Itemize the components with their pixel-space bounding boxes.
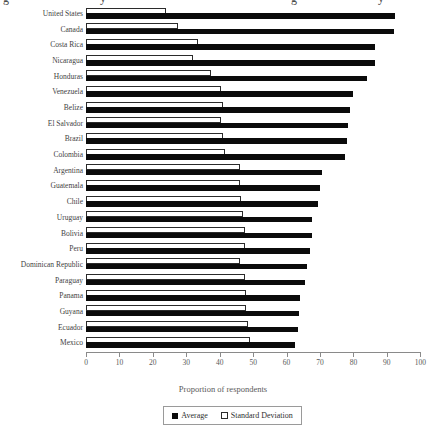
category-label: Canada [0,23,83,36]
x-axis-tick [320,353,321,357]
category-label: Nicaragua [0,54,83,67]
x-axis-tick-label: 40 [208,358,232,367]
x-axis-tick [119,353,120,357]
x-axis-tick-label: 50 [241,358,265,367]
x-axis-tick-label: 30 [174,358,198,367]
bar-chart-figure: gygy United StatesCanadaCosta RicaNicara… [0,0,434,434]
average-bar [86,248,310,254]
average-bar [86,264,307,270]
legend-label-standard-deviation: Standard Deviation [231,411,293,420]
category-label: Brazil [0,132,83,145]
average-bar [86,342,295,348]
x-axis-tick [387,353,388,357]
x-axis-tick [420,353,421,357]
average-bar [86,154,345,160]
x-axis-tick-label: 80 [341,358,365,367]
category-label: Paraguay [0,274,83,287]
x-axis-tick [186,353,187,357]
category-label: Argentina [0,164,83,177]
legend-box: Average Standard Deviation [163,406,302,425]
x-axis-tick-label: 10 [107,358,131,367]
category-label: El Salvador [0,117,83,130]
category-label: Guyana [0,305,83,318]
category-label: Honduras [0,70,83,83]
average-bar [86,44,375,50]
average-bar [86,201,318,207]
category-label: Dominican Republic [0,258,83,271]
average-bar [86,123,348,129]
legend-item-average: Average [172,411,208,420]
average-bar [86,311,299,317]
x-axis-tick [287,353,288,357]
category-label: Peru [0,242,83,255]
average-bar [86,138,347,144]
average-bar [86,13,395,19]
x-axis-tick [253,353,254,357]
category-label: Belize [0,101,83,114]
average-bar [86,29,394,35]
average-bar [86,170,322,176]
average-bar [86,217,312,223]
average-bar [86,295,300,301]
filled-square-icon [172,413,178,419]
average-bar [86,60,375,66]
category-label: Panama [0,289,83,302]
average-bar [86,233,312,239]
category-label: Mexico [0,336,83,349]
category-label: Costa Rica [0,38,83,51]
average-bar [86,107,350,113]
x-axis-tick-label: 20 [141,358,165,367]
legend-label-average: Average [181,411,208,420]
x-axis-tick [353,353,354,357]
average-bar [86,327,298,333]
category-label: Ecuador [0,321,83,334]
average-bar [86,76,367,82]
average-bar [86,91,353,97]
x-axis-tick-label: 70 [308,358,332,367]
x-axis-tick [153,353,154,357]
x-axis-tick-label: 100 [408,358,432,367]
category-label: Guatemala [0,179,83,192]
category-label: Bolivia [0,227,83,240]
x-axis-title: Proportion of respondents [123,384,323,394]
average-bar [86,280,305,286]
x-axis-tick [86,353,87,357]
category-label: Colombia [0,148,83,161]
x-axis-tick [220,353,221,357]
plot-area: United StatesCanadaCosta RicaNicaraguaHo… [0,0,434,434]
category-label: Uruguay [0,211,83,224]
open-square-icon [221,412,228,419]
x-axis-tick-label: 0 [74,358,98,367]
category-label: Chile [0,195,83,208]
legend-item-standard-deviation: Standard Deviation [221,411,293,420]
average-bar [86,185,320,191]
category-label: Venezuela [0,85,83,98]
x-axis-tick-label: 90 [375,358,399,367]
category-label: United States [0,7,83,20]
x-axis-tick-label: 60 [275,358,299,367]
